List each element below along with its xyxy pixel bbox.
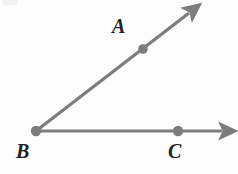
- point-label-a: A: [112, 16, 125, 36]
- point-a-dot: [138, 44, 148, 54]
- geometry-figure: A B C: [0, 0, 238, 174]
- point-label-b: B: [16, 141, 29, 161]
- vertex-point-b: [31, 126, 41, 136]
- point-label-c: C: [168, 141, 181, 161]
- point-c-dot: [173, 126, 183, 136]
